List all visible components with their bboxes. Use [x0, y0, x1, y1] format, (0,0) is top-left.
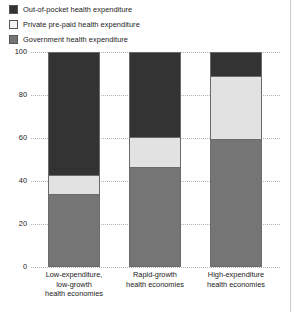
bar-segment-private-prepaid: [130, 138, 180, 167]
y-tick-100: 100: [1, 48, 27, 56]
y-tick-20: 20: [1, 220, 27, 228]
y-tick-60: 60: [1, 134, 27, 142]
legend-label-private-prepaid: Private pre-paid health expenditure: [23, 20, 140, 29]
x-axis-category-labels: Low-expenditure, low-growth health econo…: [31, 270, 280, 312]
chart-legend: Out-of-pocket health expenditure Private…: [9, 3, 279, 48]
category-label-line: Rapid-growth: [109, 270, 201, 280]
legend-swatch-private-prepaid: [9, 20, 18, 29]
legend-swatch-government: [9, 35, 18, 44]
y-tick-80: 80: [1, 91, 27, 99]
bar-segment-government: [49, 195, 99, 266]
category-label-line: health economies: [28, 289, 120, 299]
bar-segment-out-of-pocket: [130, 53, 180, 138]
legend-label-out-of-pocket: Out-of-pocket health expenditure: [23, 5, 132, 14]
figure-right-rule: [290, 0, 291, 312]
y-tick-0: 0: [1, 263, 27, 271]
bar-segment-out-of-pocket: [211, 53, 261, 77]
bar-segment-out-of-pocket: [49, 53, 99, 176]
y-axis-tick-labels: 100 80 60 40 20 0: [0, 52, 27, 267]
category-label-rapid-growth: Rapid-growth health economies: [109, 270, 201, 289]
legend-item-out-of-pocket: Out-of-pocket health expenditure: [9, 3, 279, 16]
bar-segment-government: [211, 140, 261, 266]
legend-label-government: Government health expenditure: [23, 35, 128, 44]
legend-swatch-out-of-pocket: [9, 5, 18, 14]
bar-rapid-growth[interactable]: [129, 52, 181, 267]
category-label-line: low-growth: [28, 280, 120, 290]
gridline-0: [31, 267, 280, 268]
category-label-line: health economies: [109, 280, 201, 290]
bar-segment-government: [130, 168, 180, 266]
bar-high-expenditure[interactable]: [210, 52, 262, 267]
category-label-line: health economies: [190, 280, 282, 290]
y-tick-40: 40: [1, 177, 27, 185]
category-label-line: Low-expenditure,: [28, 270, 120, 280]
legend-item-government: Government health expenditure: [9, 33, 279, 46]
category-label-line: High-expenditure: [190, 270, 282, 280]
category-label-high-expenditure: High-expenditure health economies: [190, 270, 282, 289]
bar-segment-private-prepaid: [49, 176, 99, 195]
category-label-low-expenditure-low-growth: Low-expenditure, low-growth health econo…: [28, 270, 120, 299]
legend-item-private-prepaid: Private pre-paid health expenditure: [9, 18, 279, 31]
plot-area: [31, 52, 280, 267]
stacked-bar-chart-figure: Out-of-pocket health expenditure Private…: [0, 0, 303, 312]
bar-segment-private-prepaid: [211, 77, 261, 140]
bar-low-expenditure-low-growth[interactable]: [48, 52, 100, 267]
